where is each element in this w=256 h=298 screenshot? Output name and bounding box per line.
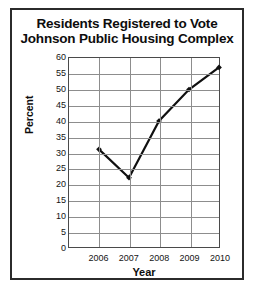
gridline-horizontal <box>69 201 219 202</box>
y-tick-label: 5 <box>61 228 66 237</box>
y-axis-label: Percent <box>23 95 35 134</box>
x-tick-label: 2009 <box>180 253 200 263</box>
chart-title-line-2: Johnson Public Housing Complex <box>12 31 242 46</box>
y-tick-label: 40 <box>56 116 66 125</box>
chart-title-line-1: Residents Registered to Vote <box>12 16 242 31</box>
y-tick-label: 35 <box>56 132 66 141</box>
x-axis-tick-labels: 20062007200820092010 <box>68 253 220 265</box>
y-tick-label: 60 <box>56 53 66 62</box>
gridline-horizontal <box>69 233 219 234</box>
gridline-horizontal <box>69 90 219 91</box>
y-tick-label: 55 <box>56 68 66 77</box>
x-tick-label: 2006 <box>88 253 108 263</box>
gridline-horizontal <box>69 138 219 139</box>
y-tick-label: 15 <box>56 196 66 205</box>
x-tick-label: 2010 <box>210 253 230 263</box>
chart-title: Residents Registered to Vote Johnson Pub… <box>12 16 242 46</box>
y-tick-label: 25 <box>56 164 66 173</box>
y-tick-label: 10 <box>56 212 66 221</box>
gridline-horizontal <box>69 74 219 75</box>
gridline-horizontal <box>69 122 219 123</box>
gridline-horizontal <box>69 154 219 155</box>
plot-area <box>68 57 220 248</box>
y-tick-label: 50 <box>56 84 66 93</box>
line-series <box>69 58 219 247</box>
x-tick-label: 2008 <box>149 253 169 263</box>
y-tick-label: 45 <box>56 100 66 109</box>
x-axis-label: Year <box>68 266 220 278</box>
gridline-vertical <box>130 58 131 247</box>
gridline-vertical <box>99 58 100 247</box>
gridline-horizontal <box>69 185 219 186</box>
gridline-vertical <box>160 58 161 247</box>
y-tick-label: 0 <box>61 244 66 253</box>
chart-figure: Residents Registered to Vote Johnson Pub… <box>10 8 244 280</box>
gridline-horizontal <box>69 217 219 218</box>
gridline-vertical <box>191 58 192 247</box>
gridline-horizontal <box>69 169 219 170</box>
gridline-horizontal <box>69 106 219 107</box>
y-tick-label: 20 <box>56 180 66 189</box>
y-tick-label: 30 <box>56 148 66 157</box>
x-tick-label: 2007 <box>119 253 139 263</box>
y-axis-tick-labels: 051015202530354045505560 <box>38 57 66 248</box>
